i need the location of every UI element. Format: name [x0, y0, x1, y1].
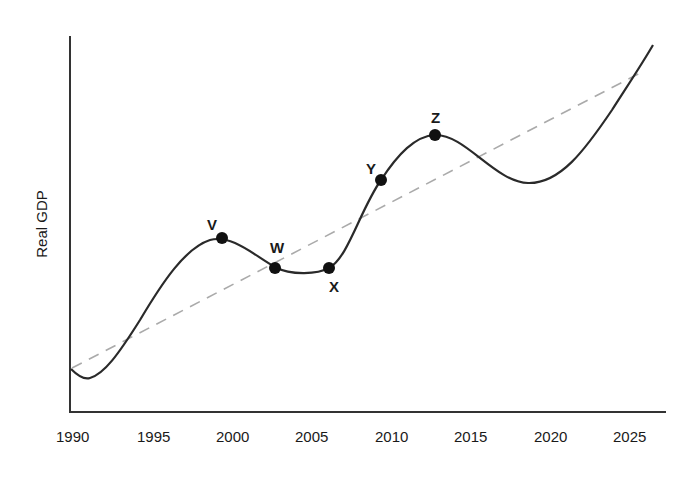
point-w-label: W	[270, 239, 285, 256]
real-gdp-chart: V W X Y Z Real GDP 1990 1995 2000 2005 2…	[0, 0, 698, 479]
point-x-marker	[323, 262, 335, 274]
point-z-marker	[429, 129, 441, 141]
point-y-label: Y	[366, 160, 376, 177]
point-y-marker	[375, 174, 387, 186]
point-w-marker	[269, 262, 281, 274]
point-z-label: Z	[431, 109, 440, 126]
y-axis-title: Real GDP	[33, 190, 50, 258]
x-tick-label: 2020	[534, 428, 567, 445]
x-tick-label: 2025	[613, 428, 646, 445]
point-x-label: X	[329, 278, 339, 295]
x-tick-label: 2000	[216, 428, 249, 445]
x-tick-label: 2010	[375, 428, 408, 445]
point-v-marker	[216, 232, 228, 244]
x-tick-label: 2015	[454, 428, 487, 445]
gdp-curve	[71, 45, 653, 379]
trend-line	[72, 72, 642, 368]
x-tick-label: 1990	[56, 428, 89, 445]
x-tick-label: 1995	[137, 428, 170, 445]
point-v-label: V	[207, 216, 217, 233]
x-tick-label: 2005	[295, 428, 328, 445]
